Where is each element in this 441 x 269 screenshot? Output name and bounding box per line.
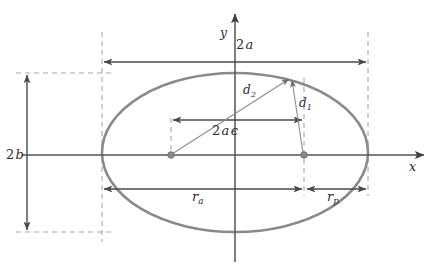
major-axis-label: 2 a <box>236 38 253 51</box>
d1-subscript: 1 <box>307 102 312 112</box>
x-axis-label: x <box>409 161 416 174</box>
rp-subscript: p <box>333 196 339 206</box>
ellipse-geometry-figure: y x 2 a 2 b 2 a ϵ d2 d1 ra rp <box>0 0 441 269</box>
focal-separation-symbol-a: a <box>222 123 230 138</box>
d1-symbol: d <box>299 96 307 110</box>
ra-subscript: a <box>198 196 203 206</box>
focal-separation-label: 2 a ϵ <box>212 124 238 137</box>
right-focus-point <box>301 152 308 159</box>
distance-d1-label: d1 <box>299 97 312 111</box>
left-focus-point <box>168 152 175 159</box>
focal-separation-symbol-epsilon: ϵ <box>231 123 238 138</box>
distance-d1-line <box>292 80 303 153</box>
apoapsis-radius-label: ra <box>192 190 203 206</box>
major-axis-coefficient: 2 <box>236 37 244 52</box>
coordinate-axes <box>22 14 424 262</box>
periapsis-radius-label: rp <box>327 190 339 206</box>
minor-axis-label: 2 b <box>6 148 24 161</box>
construction-guides <box>16 32 368 242</box>
footer-text-fragment <box>255 255 435 265</box>
y-axis-label: y <box>220 27 227 40</box>
major-axis-symbol: a <box>246 37 254 52</box>
distance-d2-line <box>172 79 289 154</box>
minor-axis-symbol: b <box>16 147 24 162</box>
distance-d2-label: d2 <box>243 84 256 98</box>
focal-separation-coefficient: 2 <box>212 123 220 138</box>
d2-subscript: 2 <box>251 89 256 99</box>
minor-axis-coefficient: 2 <box>6 147 14 162</box>
d2-symbol: d <box>243 83 251 97</box>
